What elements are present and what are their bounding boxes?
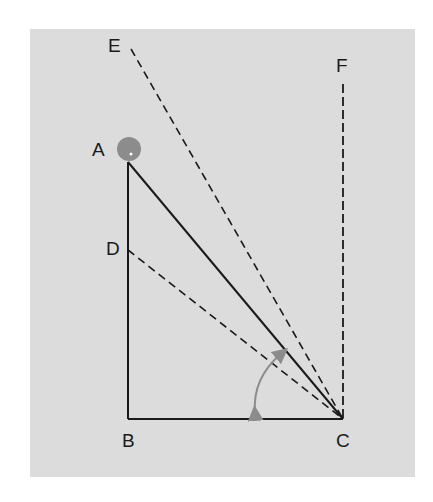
label-c: C	[336, 430, 350, 451]
label-f: F	[336, 55, 348, 76]
segment-dc-dashed	[128, 250, 343, 419]
ball	[117, 137, 141, 161]
label-e: E	[108, 35, 121, 56]
label-b: B	[122, 430, 135, 451]
label-a: A	[92, 139, 105, 160]
segment-ec-dashed	[131, 49, 343, 419]
angle-arc-arrow	[255, 353, 282, 413]
ball-highlight	[130, 153, 133, 156]
label-d: D	[106, 238, 120, 259]
geometry-diagram: A B C D E F	[0, 0, 433, 502]
segment-ac	[128, 162, 343, 419]
